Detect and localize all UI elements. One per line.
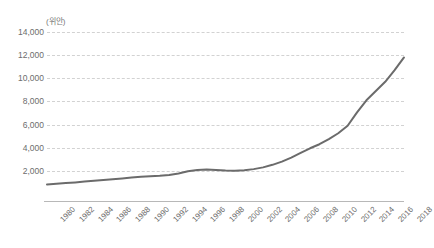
x-axis-tick-label: 1984: [96, 205, 115, 224]
y-axis-unit-label: (위안): [46, 15, 65, 26]
x-axis-tick-label: 2002: [265, 205, 284, 224]
x-axis-tick-label: 2012: [359, 205, 378, 224]
x-axis-tick-label: 1982: [77, 205, 96, 224]
y-axis-tick-label: 6,000: [0, 120, 44, 130]
x-axis-tick-label: 2008: [321, 205, 340, 224]
series-path: [47, 57, 404, 184]
y-axis-tick-label: 10,000: [0, 73, 44, 83]
x-axis-tick-label: 2000: [246, 205, 265, 224]
x-axis-tick-label: 1988: [133, 205, 152, 224]
x-axis-line: [44, 201, 404, 202]
y-axis-tick-label: 14,000: [0, 27, 44, 37]
x-axis-tick-label: 1996: [209, 205, 228, 224]
x-axis-tick-label: 2018: [415, 205, 434, 224]
x-axis-tick-label: 1994: [190, 205, 209, 224]
x-axis-tick-label: 2004: [284, 205, 303, 224]
x-axis-tick-label: 1980: [58, 205, 77, 224]
x-axis-tick-label: 1990: [152, 205, 171, 224]
x-axis-labels: 1980198219841986198819901992199419961998…: [47, 203, 404, 247]
plot-area: [47, 32, 404, 194]
data-series-line: [47, 32, 404, 194]
x-axis-tick-label: 1992: [171, 205, 190, 224]
y-axis-tick-label: 4,000: [0, 143, 44, 153]
x-axis-tick-label: 2006: [302, 205, 321, 224]
y-axis-tick-label: 8,000: [0, 96, 44, 106]
x-axis-tick-label: 2014: [378, 205, 397, 224]
y-axis-tick-label: 2,000: [0, 166, 44, 176]
y-axis-labels: 2,0004,0006,0008,00010,00012,00014,000: [0, 32, 44, 194]
x-axis-tick-label: 1986: [115, 205, 134, 224]
x-axis-tick-label: 2010: [340, 205, 359, 224]
x-axis-tick-label: 1998: [227, 205, 246, 224]
x-axis-tick-label: 2016: [396, 205, 415, 224]
y-axis-tick-label: 12,000: [0, 50, 44, 60]
